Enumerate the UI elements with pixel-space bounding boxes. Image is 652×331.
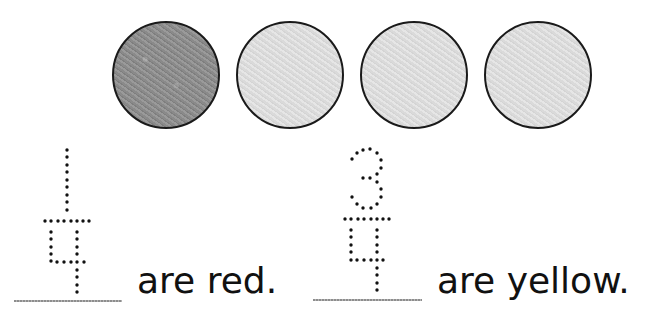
label-are-red: are red. — [137, 263, 277, 299]
dotted-fraction-one-fourth — [0, 140, 140, 310]
yellow-circle-2 — [360, 21, 468, 129]
red-circle — [112, 21, 220, 129]
yellow-circle-3 — [484, 21, 592, 129]
answer-line-yellow — [313, 299, 422, 301]
yellow-circle-1 — [236, 21, 344, 129]
dotted-fraction-three-fourths — [300, 140, 440, 310]
answer-line-red — [14, 300, 122, 302]
label-are-yellow: are yellow. — [437, 263, 630, 299]
